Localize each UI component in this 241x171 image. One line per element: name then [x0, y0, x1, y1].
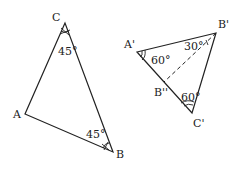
vertex-label-c: C [52, 11, 60, 24]
vertex-label-b-prime: B' [218, 18, 229, 31]
angle-value-b-prime: 30° [184, 40, 204, 53]
angle-value-a-prime: 60° [151, 54, 171, 67]
vertex-label-b: B [116, 148, 124, 161]
triangle-abc: C A B 45° 45° [12, 11, 124, 161]
vertex-label-a-prime: A' [123, 38, 135, 51]
geometry-diagram: C A B 45° 45° A' B' C' B'' 60° 30° 60° [0, 0, 241, 171]
angle-value-c: 45° [58, 45, 78, 58]
triangle-abc-prime-outline [137, 33, 216, 113]
vertex-label-c-prime: C' [193, 117, 204, 130]
vertex-label-a: A [12, 108, 22, 121]
vertex-label-b-double-prime: B'' [154, 86, 168, 99]
triangle-abc-prime: A' B' C' B'' 60° 30° 60° [123, 18, 229, 130]
angle-tick-b-prime [206, 40, 208, 45]
angle-value-b: 45° [86, 128, 106, 141]
angle-value-c-prime: 60° [181, 91, 201, 104]
